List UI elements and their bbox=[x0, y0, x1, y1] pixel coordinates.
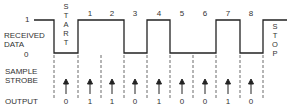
strobe-arrow-icon bbox=[110, 79, 115, 94]
output-value: 0 bbox=[129, 97, 141, 106]
strobe-arrow-icon bbox=[249, 79, 254, 94]
strobe-arrow-icon bbox=[203, 79, 208, 94]
output-value: 0 bbox=[199, 97, 211, 106]
strobe-arrow-icon bbox=[133, 79, 138, 94]
received-data-label-line2: DATA bbox=[4, 40, 24, 49]
sample-strobe-label-line1: SAMPLE bbox=[5, 67, 37, 76]
bit-number: 4 bbox=[153, 9, 165, 18]
bit-number: 3 bbox=[129, 9, 141, 18]
level-high-label: 1 bbox=[25, 15, 29, 24]
output-value: 1 bbox=[222, 97, 234, 106]
strobe-arrow-icon bbox=[88, 79, 93, 94]
strobe-arrow-icon bbox=[157, 79, 162, 94]
bit-number: 2 bbox=[106, 9, 118, 18]
bit-number: 8 bbox=[245, 9, 257, 18]
received-data-label-line1: RECEIVED bbox=[4, 31, 45, 40]
output-value: 1 bbox=[106, 97, 118, 106]
strobe-arrow-icon bbox=[226, 79, 231, 94]
received-data-waveform bbox=[34, 20, 287, 53]
bit-number: 7 bbox=[222, 9, 234, 18]
output-value: 0 bbox=[245, 97, 257, 106]
level-low-label: 0 bbox=[24, 50, 28, 59]
bit-number: 1 bbox=[84, 9, 96, 18]
bit-number: 6 bbox=[199, 9, 211, 18]
strobe-arrow-icon bbox=[64, 79, 69, 94]
output-value: 1 bbox=[153, 97, 165, 106]
sample-strobe-label-line2: STROBE bbox=[5, 76, 38, 85]
output-label: OUTPUT bbox=[5, 97, 38, 106]
bit-number: 5 bbox=[176, 9, 188, 18]
output-value: 1 bbox=[84, 97, 96, 106]
strobe-arrow-icon bbox=[180, 79, 185, 94]
sample-strobe-arrows bbox=[64, 79, 254, 94]
output-value: 0 bbox=[176, 97, 188, 106]
output-value: 0 bbox=[60, 97, 72, 106]
